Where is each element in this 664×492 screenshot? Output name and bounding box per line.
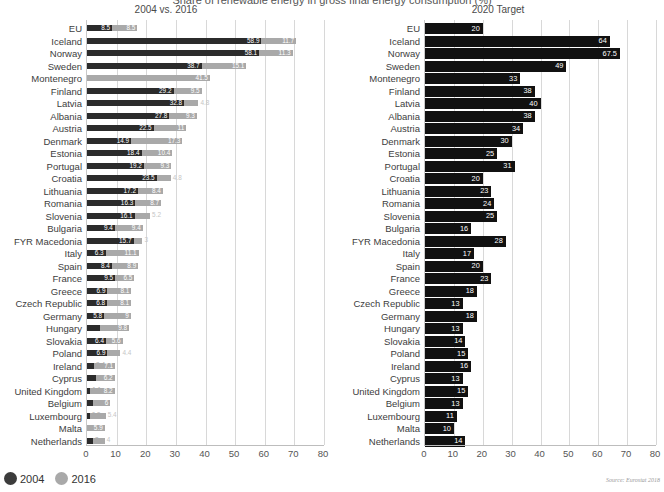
bar-2016: 11 xyxy=(154,125,187,131)
bar-value-2020-target: 30 xyxy=(500,137,511,144)
gridline-80 xyxy=(656,20,657,445)
bar-2016: 8.1 xyxy=(107,300,131,306)
bar-value-2004: 58.9 xyxy=(247,38,261,44)
bar-2016: 41.5 xyxy=(87,75,210,81)
bar-value-2016: 5.2 xyxy=(150,212,161,218)
bar-2016: 4.4 xyxy=(107,350,120,356)
bar-2016: 8.1 xyxy=(107,288,131,294)
bar-2016: 11.1 xyxy=(106,250,139,256)
bar-2004: 15.7 xyxy=(87,238,134,244)
bar-value-2004: 9.5 xyxy=(104,275,115,281)
bar-value-2020-target: 15 xyxy=(457,387,468,394)
bar-2004: 18.4 xyxy=(87,150,142,156)
bar-value-2004: 14.9 xyxy=(117,138,131,144)
gridline-80 xyxy=(324,20,325,445)
bar-value-2016: 4.4 xyxy=(120,350,131,356)
x-axis-ticks-left: 01020304050607080 xyxy=(86,448,324,464)
x-tick-40: 40 xyxy=(534,448,545,459)
bar-2016: 6 xyxy=(93,400,111,406)
bar-value-2016: 9.8 xyxy=(118,325,129,331)
bar-2016: 15.1 xyxy=(202,63,247,69)
x-tick-60: 60 xyxy=(258,448,269,459)
chart-panel-2004-vs-2016: EUIcelandNorwaySwedenMontenegroFinlandLa… xyxy=(0,20,332,464)
x-tick-0: 0 xyxy=(421,448,426,459)
bar-value-2016: 9 xyxy=(125,313,131,319)
bar-value-2004: 38.7 xyxy=(187,63,201,69)
legend-item-2016[interactable]: 2016 xyxy=(55,472,95,485)
bar-value-2016: 6.5 xyxy=(124,275,135,281)
bar-value-2020-target: 40 xyxy=(529,100,540,107)
x-tick-60: 60 xyxy=(592,448,603,459)
bar-2004: 6.9 xyxy=(87,288,107,294)
bar-value-2004: 27.8 xyxy=(155,113,169,119)
bar-2004: 9.4 xyxy=(87,225,115,231)
bar-value-2016: 15.1 xyxy=(232,63,246,69)
bar-2004: 58.1 xyxy=(87,50,259,56)
bar-value-2004: 22.5 xyxy=(139,125,153,131)
bar-value-2004: 9.4 xyxy=(104,225,115,231)
x-tick-50: 50 xyxy=(563,448,574,459)
bar-value-2020-target: 64 xyxy=(599,37,610,44)
bar-value-2020-target: 38 xyxy=(523,112,534,119)
bar-value-2004: 17.2 xyxy=(124,188,138,194)
bar-2004: 6.8 xyxy=(87,300,107,306)
bar-value-2016: 11 xyxy=(178,125,187,131)
bar-value-2016: 5.9 xyxy=(94,425,105,431)
legend-item-2004[interactable]: 2004 xyxy=(4,472,44,485)
category-labels-left: EUIcelandNorwaySwedenMontenegroFinlandLa… xyxy=(0,20,86,445)
category-labels-right: EUIcelandNorwaySwedenMontenegroFinlandLa… xyxy=(332,20,424,445)
bar-2004: 19.2 xyxy=(87,163,144,169)
bar-value-2016: 3 xyxy=(142,237,148,243)
bar-value-2020-target: 20 xyxy=(472,175,483,182)
bar-value-2016: 4 xyxy=(105,437,111,443)
chart-panel-2020-target: EUIcelandNorwaySwedenMontenegroFinlandLa… xyxy=(332,20,664,464)
right-panel-title: 2020 Target xyxy=(332,4,664,15)
bar-value-2004: 5.8 xyxy=(93,313,104,319)
x-tick-20: 20 xyxy=(140,448,151,459)
bar-value-2020-target: 14 xyxy=(454,437,465,444)
bar-value-2016: 10.4 xyxy=(158,150,172,156)
bar-2004: 8.4 xyxy=(87,263,112,269)
bar-value-2020-target: 13 xyxy=(451,300,462,307)
bar-2016: 5.6 xyxy=(106,338,123,344)
bar-2016: 6.5 xyxy=(115,275,134,281)
bar-2016: 4 xyxy=(93,438,105,444)
source-note: Source: Eurostat 2018 xyxy=(606,477,660,483)
bar-2004: 16.1 xyxy=(87,213,135,219)
x-axis-line-right xyxy=(424,445,656,446)
x-tick-20: 20 xyxy=(476,448,487,459)
bar-2004: 32.8 xyxy=(87,100,184,106)
bar-value-2020-target: 13 xyxy=(451,400,462,407)
bar-value-2016: 8.1 xyxy=(120,300,131,306)
bar-value-2016: 6 xyxy=(105,400,111,406)
bar-value-2016: 8.9 xyxy=(127,263,138,269)
bar-2004: 22.5 xyxy=(87,125,154,131)
x-tick-30: 30 xyxy=(170,448,181,459)
x-tick-50: 50 xyxy=(229,448,240,459)
bar-value-2020-target: 34 xyxy=(512,125,523,132)
bar-2004: 16.3 xyxy=(87,200,135,206)
bar-value-2016: 11.1 xyxy=(125,250,139,256)
bar-value-2004: 16.1 xyxy=(120,213,134,219)
x-tick-30: 30 xyxy=(505,448,516,459)
legend-swatch-icon xyxy=(4,472,17,485)
legend-swatch-icon xyxy=(55,472,68,485)
bar-2004: 38.7 xyxy=(87,63,202,69)
bar-value-2020-target: 18 xyxy=(466,312,477,319)
bar-2016: 5.4 xyxy=(90,413,106,419)
bar-value-2020-target: 15 xyxy=(457,350,468,357)
bar-2016: 3 xyxy=(134,238,143,244)
bar-value-2020-target: 24 xyxy=(483,200,494,207)
x-tick-40: 40 xyxy=(199,448,210,459)
bar-2004: 3.1 xyxy=(87,375,96,381)
bar-2004: 14.9 xyxy=(87,138,131,144)
bar-value-2020-target: 17 xyxy=(463,250,474,257)
bar-value-2020-target: 23 xyxy=(480,187,491,194)
x-tick-10: 10 xyxy=(448,448,459,459)
bar-2016: 9.8 xyxy=(100,325,129,331)
bar-value-2016: 4.8 xyxy=(171,175,182,181)
bar-2004: 8.5 xyxy=(87,25,112,31)
bar-value-2020-target: 28 xyxy=(495,237,506,244)
bar-2004: 6.3 xyxy=(87,250,106,256)
bar-value-2020-target: 16 xyxy=(460,225,471,232)
